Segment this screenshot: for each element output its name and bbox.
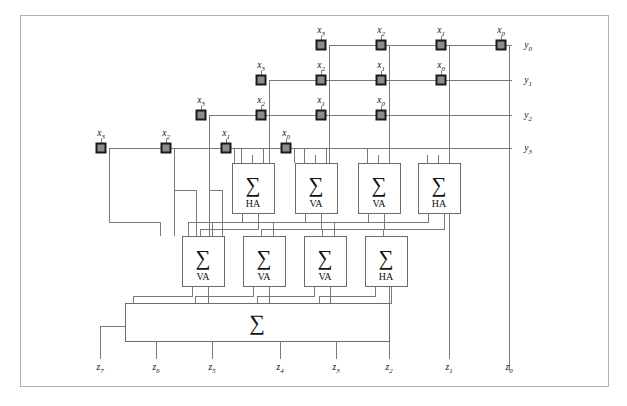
pp-node-y1-x0 bbox=[437, 76, 446, 85]
pp-node-y2-x0 bbox=[377, 111, 386, 120]
adder-type-label: VA bbox=[309, 198, 323, 209]
adder-type-label: VA bbox=[318, 271, 332, 282]
pp-node-y0-x3 bbox=[317, 41, 326, 50]
pp-node-y2-x3 bbox=[197, 111, 206, 120]
multiplier-diagram: ∑HA∑VA∑VA∑HA∑VA∑VA∑VA∑HA∑ y0x3x2x1x0y1x3… bbox=[0, 0, 627, 406]
sigma-glyph: ∑ bbox=[257, 246, 272, 270]
pp-node-y3-x3 bbox=[97, 144, 106, 153]
adder-stage2-0-va[interactable]: ∑VA bbox=[183, 237, 225, 287]
pp-node-y2-x1 bbox=[317, 111, 326, 120]
final-carry-propagate-adder[interactable]: ∑ bbox=[126, 304, 390, 342]
sigma-glyph: ∑ bbox=[246, 173, 261, 197]
adder-type-label: VA bbox=[257, 271, 271, 282]
pp-node-y1-x3 bbox=[257, 76, 266, 85]
adder-stage1-1-va[interactable]: ∑VA bbox=[296, 164, 338, 214]
pp-node-y0-x1 bbox=[437, 41, 446, 50]
sigma-glyph: ∑ bbox=[309, 173, 324, 197]
sigma-glyph: ∑ bbox=[432, 173, 447, 197]
adder-type-label: HA bbox=[432, 198, 447, 209]
pp-node-y0-x2 bbox=[377, 41, 386, 50]
sigma-glyph: ∑ bbox=[318, 246, 333, 270]
pp-node-y1-x2 bbox=[317, 76, 326, 85]
adder-type-label: HA bbox=[246, 198, 261, 209]
figure-root: ∑HA∑VA∑VA∑HA∑VA∑VA∑VA∑HA∑ y0x3x2x1x0y1x3… bbox=[0, 0, 627, 406]
adder-type-label: VA bbox=[196, 271, 210, 282]
adder-type-label: HA bbox=[379, 271, 394, 282]
sigma-glyph: ∑ bbox=[249, 310, 265, 335]
pp-node-y3-x1 bbox=[222, 144, 231, 153]
adder-stage1-2-va[interactable]: ∑VA bbox=[359, 164, 401, 214]
adder-stage2-1-va[interactable]: ∑VA bbox=[244, 237, 286, 287]
pp-node-y3-x2 bbox=[162, 144, 171, 153]
adder-stage1-3-ha[interactable]: ∑HA bbox=[419, 164, 461, 214]
adder-type-label: VA bbox=[372, 198, 386, 209]
sigma-glyph: ∑ bbox=[196, 246, 211, 270]
pp-node-y0-x0 bbox=[497, 41, 506, 50]
adder-stage1-0-ha[interactable]: ∑HA bbox=[233, 164, 275, 214]
sigma-glyph: ∑ bbox=[379, 246, 394, 270]
adder-stage2-3-ha[interactable]: ∑HA bbox=[366, 237, 408, 287]
pp-node-y1-x1 bbox=[377, 76, 386, 85]
pp-node-y2-x2 bbox=[257, 111, 266, 120]
adder-stage2-2-va[interactable]: ∑VA bbox=[305, 237, 347, 287]
sigma-glyph: ∑ bbox=[372, 173, 387, 197]
pp-node-y3-x0 bbox=[282, 144, 291, 153]
